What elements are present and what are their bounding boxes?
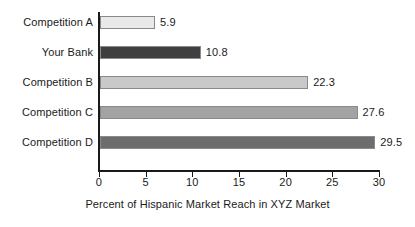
bar-value-label: 10.8 bbox=[206, 45, 228, 60]
bar bbox=[100, 46, 201, 59]
x-tick-label: 25 bbox=[312, 176, 352, 188]
bar-row: Competition B22.3 bbox=[0, 75, 415, 90]
bar bbox=[100, 76, 308, 89]
category-label: Competition A bbox=[0, 15, 93, 30]
bar bbox=[100, 106, 358, 119]
category-label: Competition C bbox=[0, 105, 93, 120]
x-tick-label: 0 bbox=[79, 176, 119, 188]
x-tick-label: 15 bbox=[219, 176, 259, 188]
bar bbox=[100, 136, 375, 149]
bar bbox=[100, 16, 155, 29]
x-tick-label: 20 bbox=[266, 176, 306, 188]
bar-row: Competition D29.5 bbox=[0, 135, 415, 150]
bar-value-label: 29.5 bbox=[380, 135, 402, 150]
bar-row: Competition C27.6 bbox=[0, 105, 415, 120]
category-label: Competition D bbox=[0, 135, 93, 150]
plot-area: Competition A5.9Your Bank10.8Competition… bbox=[0, 0, 415, 227]
x-tick-label: 30 bbox=[359, 176, 399, 188]
category-label: Your Bank bbox=[0, 45, 93, 60]
category-label: Competition B bbox=[0, 75, 93, 90]
x-tick-label: 5 bbox=[126, 176, 166, 188]
x-tick-label: 10 bbox=[172, 176, 212, 188]
bar-value-label: 5.9 bbox=[160, 15, 176, 30]
bar-value-label: 22.3 bbox=[313, 75, 335, 90]
bar-row: Competition A5.9 bbox=[0, 15, 415, 30]
x-axis-title: Percent of Hispanic Market Reach in XYZ … bbox=[0, 198, 415, 210]
bar-chart: Competition A5.9Your Bank10.8Competition… bbox=[0, 0, 415, 227]
bar-row: Your Bank10.8 bbox=[0, 45, 415, 60]
bar-value-label: 27.6 bbox=[363, 105, 385, 120]
